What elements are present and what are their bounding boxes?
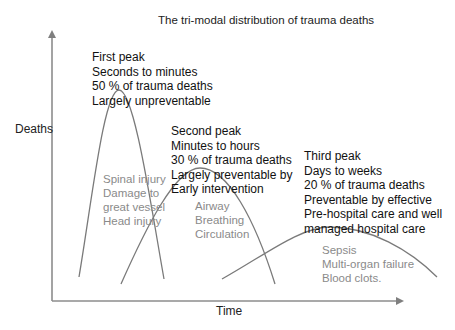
y-axis-label: Deaths xyxy=(15,122,53,137)
first-peak-causes: Spinal injury Damage to great vessel Hea… xyxy=(103,172,166,228)
diagram-title: The tri-modal distribution of trauma dea… xyxy=(158,13,374,28)
peak-preventability: Early intervention xyxy=(171,182,292,197)
cause-item: Circulation xyxy=(195,227,249,241)
peak-timing: Days to weeks xyxy=(304,164,442,179)
third-peak-annotation: Third peak Days to weeks 20 % of trauma … xyxy=(304,149,442,236)
peak-preventability: Pre-hospital care and well xyxy=(304,207,442,222)
cause-item: great vessel xyxy=(103,200,166,214)
peak-share: 50 % of trauma deaths xyxy=(92,79,213,94)
cause-item: Blood clots. xyxy=(322,271,414,285)
peak-name: First peak xyxy=(92,50,213,65)
peak-preventability: managed hospital care xyxy=(304,222,442,237)
peak-name: Third peak xyxy=(304,149,442,164)
first-peak-annotation: First peak Seconds to minutes 50 % of tr… xyxy=(92,50,213,108)
peak-share: 30 % of trauma deaths xyxy=(171,153,292,168)
cause-item: Spinal injury xyxy=(103,172,166,186)
cause-item: Breathing xyxy=(195,213,249,227)
cause-item: Damage to xyxy=(103,186,166,200)
cause-item: Head injury xyxy=(103,214,166,228)
peak-timing: Minutes to hours xyxy=(171,139,292,154)
peak-preventability: Largely preventable by xyxy=(171,168,292,183)
second-peak-annotation: Second peak Minutes to hours 30 % of tra… xyxy=(171,124,292,197)
cause-item: Sepsis xyxy=(322,243,414,257)
cause-item: Multi-organ failure xyxy=(322,257,414,271)
second-peak-causes: Airway Breathing Circulation xyxy=(195,199,249,241)
x-axis-label: Time xyxy=(216,304,242,319)
third-peak-causes: Sepsis Multi-organ failure Blood clots. xyxy=(322,243,414,285)
peak-share: 20 % of trauma deaths xyxy=(304,178,442,193)
peak-preventability: Preventable by effective xyxy=(304,193,442,208)
peak-preventability: Largely unpreventable xyxy=(92,94,213,109)
peak-timing: Seconds to minutes xyxy=(92,65,213,80)
cause-item: Airway xyxy=(195,199,249,213)
peak-name: Second peak xyxy=(171,124,292,139)
